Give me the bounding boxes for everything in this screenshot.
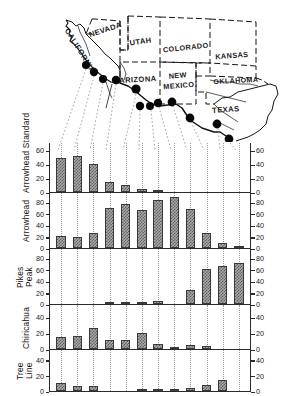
gridline-6 [142, 249, 143, 304]
panel-chiricahua: Chiricahua0204002040 [0, 305, 284, 350]
gridline-12 [239, 350, 240, 391]
bars-container [49, 193, 251, 248]
tick-label: 40 [256, 278, 264, 285]
gridline-5 [126, 350, 127, 391]
panel-arrowhead: Arrowhead020406080020406080 [0, 193, 284, 249]
tick-label: 60 [36, 211, 44, 218]
tick-label: 40 [256, 222, 264, 229]
bar-7 [153, 200, 162, 248]
bar-6 [137, 333, 146, 349]
state-label-utah: UTAH [129, 36, 152, 48]
bar-2 [73, 336, 82, 349]
gridline-8 [174, 305, 175, 349]
gridline-8 [174, 249, 175, 304]
gridline-3 [93, 249, 94, 304]
bar-5 [121, 204, 130, 248]
bar-1 [56, 383, 65, 391]
plot-area: 020406080020406080 [49, 249, 251, 305]
tick-label: 20 [36, 290, 44, 297]
bar-8 [170, 389, 179, 391]
panel-label-tree-line: Tree Line [16, 350, 33, 392]
tick-mark [251, 270, 255, 271]
site-dot-9 [168, 98, 177, 107]
collection-site-dots [82, 61, 233, 142]
gridline-6 [142, 350, 143, 391]
state-label-arizona: ARIZONA [119, 74, 157, 85]
bar-7 [153, 389, 162, 391]
gridline-8 [174, 143, 175, 192]
bar-10 [202, 269, 211, 304]
bar-11 [218, 243, 227, 248]
gridline-4 [110, 249, 111, 304]
site-dot-2 [90, 68, 98, 76]
tick-label: 20 [256, 175, 264, 182]
bar-1 [56, 337, 65, 349]
tick-mark [251, 226, 255, 227]
plot-area: 020406080020406080 [49, 193, 251, 249]
tick-mark [251, 318, 255, 319]
site-dot-1 [82, 61, 90, 69]
bar-12 [234, 246, 243, 248]
bar-7 [153, 190, 162, 192]
bar-4 [105, 208, 114, 248]
state-label-kansas: KANSAS [215, 50, 249, 61]
bars-container [49, 249, 251, 304]
tick-mark [251, 282, 255, 283]
panel-arrowhead-standard: Arrowhead Standard02040600204060 [0, 143, 284, 193]
state-label-new-mexico-line2: MEXICO [163, 80, 195, 92]
tick-label: 40 [256, 314, 264, 321]
tick-label: 60 [36, 267, 44, 274]
plot-area: 0204002040 [49, 350, 251, 392]
tick-mark [251, 334, 255, 335]
gridline-4 [110, 350, 111, 391]
plot-area: 02040600204060 [49, 143, 251, 193]
bar-10 [202, 385, 211, 391]
gridline-8 [174, 350, 175, 391]
bar-11 [218, 266, 227, 304]
gridline-10 [207, 305, 208, 349]
tick-label: 20 [36, 175, 44, 182]
tick-label: 40 [36, 222, 44, 229]
bar-2 [73, 237, 82, 248]
tick-label: 80 [256, 255, 264, 262]
bar-11 [218, 380, 227, 391]
bar-4 [105, 340, 114, 349]
panel-label-arrowhead-standard: Arrowhead Standard [22, 143, 31, 193]
gridline-11 [223, 193, 224, 248]
bars-container [49, 305, 251, 349]
tick-label: 20 [256, 373, 264, 380]
gridline-11 [223, 305, 224, 349]
tick-mark [251, 203, 255, 204]
tick-label: 0 [256, 388, 260, 395]
tick-mark [251, 293, 255, 294]
tick-label: 40 [36, 278, 44, 285]
state-label-colorado: COLORADO [163, 41, 209, 55]
tick-label: 60 [256, 267, 264, 274]
bar-12 [234, 263, 243, 304]
bar-5 [121, 185, 130, 192]
gridline-10 [207, 143, 208, 192]
bar-8 [170, 197, 179, 248]
bar-4 [105, 302, 114, 304]
bar-2 [73, 156, 82, 192]
tick-label: 80 [256, 199, 264, 206]
bar-9 [186, 388, 195, 391]
panel-label-pikes-peak: Pikes Peak [16, 249, 33, 305]
tick-label: 60 [36, 147, 44, 154]
tick-label: 20 [256, 234, 264, 241]
tick-mark [251, 360, 255, 361]
bar-1 [56, 158, 65, 192]
tick-label: 80 [36, 255, 44, 262]
bar-7 [153, 344, 162, 349]
bar-9 [186, 345, 195, 349]
tick-mark [251, 165, 255, 166]
bar-9 [186, 209, 195, 248]
bar-6 [137, 389, 146, 391]
tick-label: 20 [36, 330, 44, 337]
gridline-2 [77, 249, 78, 304]
tick-mark [46, 392, 50, 393]
tick-label: 20 [256, 330, 264, 337]
panel-label-chiricahua: Chiricahua [22, 305, 31, 350]
tick-label: 40 [36, 161, 44, 168]
